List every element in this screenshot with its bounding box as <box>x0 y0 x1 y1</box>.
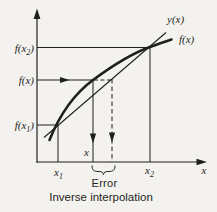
label-fx-curve: f(x) <box>179 33 195 46</box>
function-curve-fx <box>50 40 172 141</box>
label-fx2: f(x2) <box>15 42 35 57</box>
error-label: Error <box>92 177 118 189</box>
label-yx-line: y(x) <box>166 13 184 26</box>
error-underbrace-icon <box>92 166 115 175</box>
figure-caption: Inverse interpolation <box>49 191 153 203</box>
right-arrowhead-icon <box>60 77 70 83</box>
label-x-true: x <box>83 146 89 158</box>
label-x2: x2 <box>144 164 154 179</box>
down-arrowhead-dashed-icon <box>109 133 115 143</box>
figure-inverse-interpolation: f(x2) f(x) f(x1) y(x) f(x) x1 x x2 x Err… <box>0 0 217 212</box>
label-x-axis-variable: x <box>201 164 207 176</box>
label-x1: x1 <box>53 166 63 181</box>
down-arrowhead-solid-icon <box>90 134 96 144</box>
label-fx: f(x) <box>19 74 35 87</box>
y-axis-arrowhead-icon <box>34 9 41 20</box>
label-fx1: f(x1) <box>15 119 35 134</box>
diagram-canvas: f(x2) f(x) f(x1) y(x) f(x) x1 x x2 x Err… <box>0 0 217 212</box>
